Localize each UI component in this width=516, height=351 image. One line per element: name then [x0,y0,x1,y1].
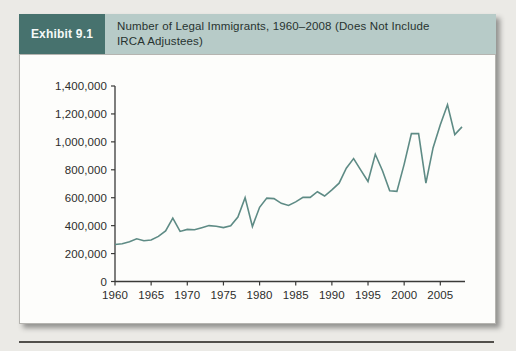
exhibit-card: Exhibit 9.1 Number of Legal Immigrants, … [19,14,496,324]
chart-panel: 0200,000400,000600,000800,0001,000,0001,… [19,54,496,324]
x-tick-label: 1975 [210,289,236,301]
y-tick-label: 400,000 [65,220,107,232]
y-tick-label: 800,000 [65,164,107,176]
x-tick-label: 1995 [355,289,381,301]
y-tick-label: 1,200,000 [55,108,107,120]
y-tick-label: 0 [101,276,108,288]
exhibit-title-band: Number of Legal Immigrants, 1960–2008 (D… [105,14,496,54]
y-tick-label: 1,000,000 [55,136,107,148]
y-tick-label: 1,400,000 [55,80,107,92]
page-background: Exhibit 9.1 Number of Legal Immigrants, … [0,0,516,351]
y-axis: 0200,000400,000600,000800,0001,000,0001,… [55,80,115,288]
exhibit-number-tab: Exhibit 9.1 [19,14,105,54]
exhibit-header: Exhibit 9.1 Number of Legal Immigrants, … [19,14,496,54]
x-tick-label: 2005 [427,289,453,301]
data-series [115,105,462,245]
x-tick-label: 1985 [283,289,309,301]
exhibit-title-line1: Number of Legal Immigrants, 1960–2008 (D… [117,19,486,34]
x-tick-label: 1960 [102,289,128,301]
x-tick-label: 1970 [174,289,200,301]
x-tick-label: 1965 [138,289,164,301]
x-tick-label: 1990 [319,289,345,301]
x-tick-label: 2000 [391,289,417,301]
exhibit-number-label: Exhibit 9.1 [31,27,93,41]
y-tick-label: 600,000 [65,192,107,204]
bottom-rule [19,341,494,343]
y-tick-label: 200,000 [65,248,107,260]
immigration-line-chart: 0200,000400,000600,000800,0001,000,0001,… [20,55,495,323]
x-tick-label: 1980 [247,289,273,301]
x-axis: 1960196519701975198019851990199520002005 [102,282,465,302]
exhibit-title-line2: IRCA Adjustees) [117,34,486,49]
immigrants-line [115,105,462,245]
